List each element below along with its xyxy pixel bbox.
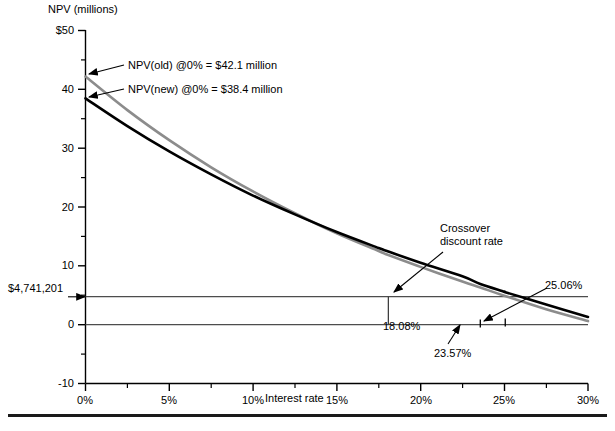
x-major-ticks xyxy=(86,384,589,392)
y-tick-label-20: 20 xyxy=(30,201,74,214)
npv-old-annotation: NPV(old) @0% = $42.1 million xyxy=(128,59,277,72)
x-tick-label-0: 0% xyxy=(62,394,108,407)
y-tick-label-10: 10 xyxy=(30,259,74,272)
x-tick-label-20: 20% xyxy=(398,394,444,407)
crossover-annotation-line1: Crossover xyxy=(440,222,490,235)
old-irr-leader xyxy=(448,325,460,344)
new-irr-annotation: 25.06% xyxy=(545,279,582,292)
old-irr-annotation: 23.57% xyxy=(434,347,471,360)
x-tick-label-10: 10% xyxy=(230,394,276,407)
npv-new-leader xyxy=(89,89,124,97)
chart-canvas xyxy=(0,0,615,431)
y-tick-label-30: 30 xyxy=(30,142,74,155)
x-tick-label-25: 25% xyxy=(481,394,527,407)
y-major-ticks xyxy=(78,31,86,384)
crossover-rate-annotation: 18.08% xyxy=(383,320,420,333)
x-tick-label-5: 5% xyxy=(146,394,192,407)
npv-old-leader xyxy=(89,65,124,74)
y-tick-label-50: $50 xyxy=(30,24,74,37)
x-tick-label-30: 30% xyxy=(565,394,611,407)
crossover-npv-annotation: $4,741,201 xyxy=(8,282,63,295)
footer-rule xyxy=(8,414,607,417)
npv-profile-chart: NPV (millions) Interest rate $50 40 30 2… xyxy=(0,0,615,431)
y-tick-label-0: 0 xyxy=(30,318,74,331)
y-tick-label-minus10: -10 xyxy=(30,377,74,390)
npv-new-annotation: NPV(new) @0% = $38.4 million xyxy=(128,83,283,96)
x-tick-label-15: 15% xyxy=(314,394,360,407)
y-tick-label-40: 40 xyxy=(30,83,74,96)
npv-new-curve xyxy=(86,98,589,317)
crossover-annotation-line2: discount rate xyxy=(440,235,503,248)
y-axis-title: NPV (millions) xyxy=(48,3,118,16)
npv-old-curve xyxy=(86,77,589,322)
